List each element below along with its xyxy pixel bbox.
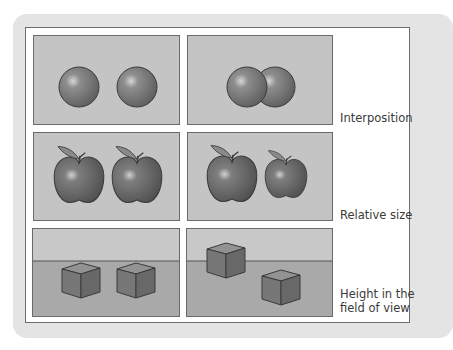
sphere-icon xyxy=(59,67,99,107)
same-level-cubes-illustration xyxy=(33,229,180,317)
interposition-overlap-tile xyxy=(187,35,333,125)
far-cube-icon xyxy=(207,243,245,278)
different-size-apples-illustration xyxy=(188,133,333,221)
cube-icon xyxy=(62,263,100,298)
different-height-cubes-illustration xyxy=(187,229,333,317)
relative-size-different-tile xyxy=(187,132,333,221)
label-height-in-field-of-view: Height in the field of view xyxy=(340,287,415,315)
apple-icon xyxy=(54,147,104,203)
small-apple-icon xyxy=(265,151,307,198)
separate-spheres-illustration xyxy=(34,36,180,125)
sphere-icon xyxy=(117,67,157,107)
front-sphere-icon xyxy=(227,67,267,107)
relative-size-equal-tile xyxy=(33,132,180,221)
equal-apples-illustration xyxy=(34,133,180,221)
height-different-level-tile xyxy=(186,228,333,317)
large-apple-icon xyxy=(207,146,257,202)
label-relative-size: Relative size xyxy=(340,208,412,222)
cube-icon xyxy=(117,263,155,298)
interposition-separate-tile xyxy=(33,35,180,125)
overlapping-spheres-illustration xyxy=(188,36,333,125)
label-interposition: Interposition xyxy=(340,111,413,125)
near-cube-icon xyxy=(262,270,300,305)
apple-icon xyxy=(112,147,162,203)
height-same-level-tile xyxy=(32,228,180,317)
